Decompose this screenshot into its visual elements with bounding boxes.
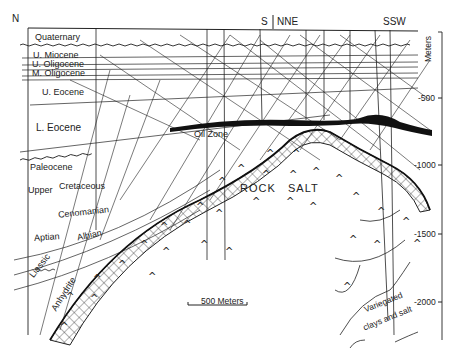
svg-text:^: ^	[93, 273, 101, 284]
svg-text:^: ^	[312, 166, 320, 177]
depth-axis-unit: Meters	[424, 36, 433, 62]
svg-text:^: ^	[183, 219, 191, 230]
svg-text:^: ^	[252, 196, 260, 207]
scale-bar-label: 500 Meters	[201, 297, 244, 306]
formation-aptian: Aptian	[34, 232, 60, 243]
svg-text:^: ^	[309, 201, 317, 212]
depth-tick-2000: -2000	[414, 298, 436, 307]
formation-paleocene: Paleocene	[30, 163, 73, 172]
formation-cretaceous: Cretaceous	[59, 182, 105, 191]
svg-text:^: ^	[200, 239, 208, 250]
formation-quaternary: Quaternary	[35, 33, 80, 42]
svg-text:^: ^	[402, 216, 410, 227]
svg-text:^: ^	[218, 176, 226, 187]
paleocene-unconformity	[20, 153, 92, 161]
depth-tick-1000: -1000	[414, 161, 436, 170]
svg-text:^: ^	[60, 321, 68, 332]
nne-label: NNE	[277, 17, 298, 27]
svg-text:^: ^	[148, 271, 156, 282]
svg-text:^: ^	[266, 148, 274, 159]
formation-m-oligocene: M. Oligocene	[32, 69, 85, 78]
rock-salt-word-salt: SALT	[288, 183, 319, 194]
svg-text:^: ^	[160, 221, 168, 232]
svg-text:^: ^	[335, 173, 343, 184]
ssw-label: SSW	[383, 17, 406, 27]
svg-text:^: ^	[90, 293, 98, 304]
depth-tick-1500: -1500	[414, 230, 436, 239]
north-label: N	[12, 14, 19, 24]
formation-u-eocene: U. Eocene	[42, 88, 84, 97]
svg-text:^: ^	[140, 239, 148, 250]
svg-text:^: ^	[343, 281, 351, 292]
svg-text:^: ^	[289, 169, 297, 180]
svg-text:^: ^	[413, 238, 421, 249]
svg-text:^: ^	[352, 191, 360, 202]
svg-text:^: ^	[286, 196, 294, 207]
svg-text:^: ^	[215, 208, 223, 219]
top-frame-line	[28, 28, 418, 31]
svg-text:^: ^	[196, 201, 204, 212]
south-label: S	[261, 17, 268, 27]
svg-text:^: ^	[225, 246, 233, 257]
rock-salt-word-rock: ROCK	[240, 183, 276, 194]
formation-l-eocene: L. Eocene	[36, 123, 81, 133]
svg-text:^: ^	[377, 206, 385, 217]
svg-text:^: ^	[237, 163, 245, 174]
formation-upper: Upper	[28, 186, 53, 195]
depth-tick-500: -500	[418, 94, 435, 103]
oil-zone-label: Oil Zone	[194, 130, 228, 139]
quaternary-unconformity	[20, 44, 410, 46]
svg-text:^: ^	[262, 169, 270, 180]
svg-text:^: ^	[373, 239, 381, 250]
svg-text:^: ^	[292, 148, 300, 159]
svg-text:^: ^	[349, 234, 357, 245]
svg-text:^: ^	[162, 246, 170, 257]
svg-text:^: ^	[118, 259, 126, 270]
